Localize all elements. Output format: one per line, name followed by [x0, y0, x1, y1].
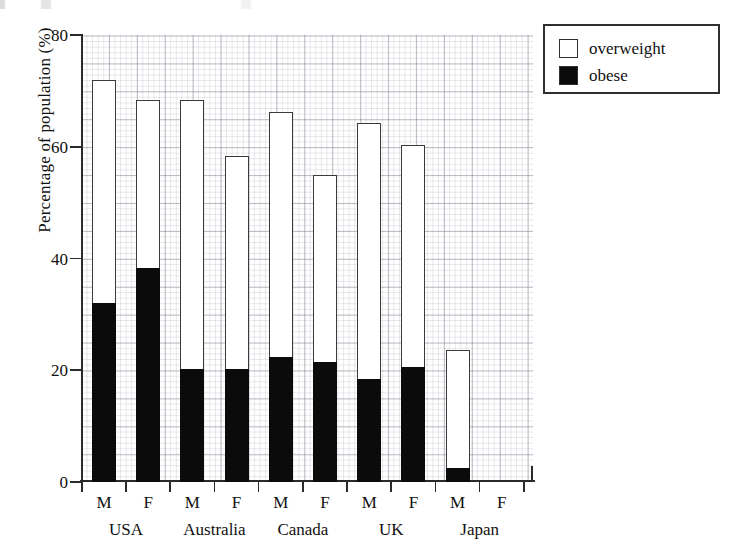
- x-axis-tick: [523, 482, 525, 492]
- legend-label-obese: obese: [589, 67, 628, 84]
- bar-segment-obese: [269, 357, 293, 482]
- bar-segment-obese: [136, 268, 160, 482]
- bar-uk-m: [357, 123, 381, 482]
- legend-swatch-overweight-icon: [559, 39, 578, 58]
- plot-right-edge: [531, 466, 533, 482]
- x-axis-sex-label: F: [222, 494, 252, 511]
- scan-artifact: [0, 0, 730, 9]
- legend: overweight obese: [543, 24, 720, 94]
- legend-swatch-obese-icon: [559, 66, 578, 85]
- bar-usa-m: [92, 80, 116, 482]
- bar-canada-m: [269, 112, 293, 482]
- bar-canada-f: [313, 175, 337, 482]
- bar-uk-f: [401, 145, 425, 482]
- bar-segment-obese: [357, 379, 381, 482]
- x-axis-sex-label: F: [398, 494, 428, 511]
- legend-item-obese: obese: [559, 62, 718, 89]
- y-axis-tick-label: 20: [28, 362, 68, 379]
- x-axis-tick: [435, 482, 437, 492]
- legend-item-overweight: overweight: [559, 35, 718, 62]
- bar-japan-m: [446, 350, 470, 482]
- bar-segment-obese: [180, 369, 204, 482]
- x-axis-sex-label: M: [443, 494, 473, 511]
- bar-australia-f: [225, 156, 249, 482]
- x-axis-sex-label: F: [310, 494, 340, 511]
- y-axis-tick-label: 80: [28, 27, 68, 44]
- x-axis-sex-label: M: [89, 494, 119, 511]
- y-axis-tick-label: 60: [28, 139, 68, 156]
- x-axis-tick: [258, 482, 260, 492]
- x-axis-tick: [214, 482, 216, 492]
- y-axis-tick: [70, 258, 81, 260]
- y-axis-line: [81, 34, 83, 483]
- x-axis-sex-label: F: [487, 494, 517, 511]
- x-axis-sex-label: F: [133, 494, 163, 511]
- x-axis-tick: [81, 482, 83, 492]
- x-axis-tick: [390, 482, 392, 492]
- x-axis-tick: [346, 482, 348, 492]
- bar-usa-f: [136, 100, 160, 482]
- x-axis-tick: [125, 482, 127, 492]
- bar-australia-m: [180, 100, 204, 482]
- x-axis-tick: [169, 482, 171, 492]
- y-axis-tick: [70, 369, 81, 371]
- x-axis-country-label-japan: Japan: [420, 521, 540, 538]
- y-axis-tick: [70, 146, 81, 148]
- bar-segment-obese: [92, 303, 116, 482]
- y-axis-tick: [70, 481, 81, 483]
- x-axis-sex-label: M: [177, 494, 207, 511]
- x-axis-sex-label: M: [354, 494, 384, 511]
- x-axis-sex-label: M: [266, 494, 296, 511]
- plot-area: [81, 35, 533, 482]
- chart-canvas: Percentage of population (%) 020406080 M…: [0, 0, 730, 554]
- bar-segment-obese: [225, 369, 249, 482]
- bar-segment-overweight: [446, 350, 470, 482]
- legend-label-overweight: overweight: [589, 40, 665, 57]
- x-axis-tick: [302, 482, 304, 492]
- y-axis-tick-label: 0: [28, 474, 68, 491]
- bar-segment-obese: [313, 362, 337, 482]
- x-axis-tick: [479, 482, 481, 492]
- y-axis-tick: [70, 34, 81, 36]
- bar-segment-obese: [401, 367, 425, 482]
- y-axis-tick-label: 40: [28, 251, 68, 268]
- bar-segment-obese: [446, 468, 470, 482]
